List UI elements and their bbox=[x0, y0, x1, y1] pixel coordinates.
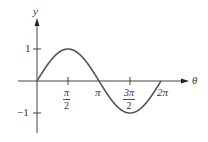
frac-denominator: 2 bbox=[127, 100, 132, 111]
y-axis-label: y bbox=[33, 6, 38, 17]
x-axis-arrow-icon bbox=[181, 79, 189, 84]
frac-numerator: π bbox=[63, 88, 70, 100]
y-tick-label-1: 1 bbox=[25, 43, 31, 54]
y-tick-label-neg1: −1 bbox=[17, 107, 29, 118]
frac-numerator: 3π bbox=[123, 88, 135, 100]
x-tick-label-pi: π bbox=[95, 87, 101, 98]
x-tick-label-3pi-half: 3π 2 bbox=[123, 88, 135, 111]
sine-chart bbox=[0, 0, 208, 142]
x-axis-label: θ bbox=[192, 75, 197, 86]
y-axis-arrow-icon bbox=[35, 18, 40, 26]
x-tick-label-pi-half: π 2 bbox=[63, 88, 70, 111]
frac-denominator: 2 bbox=[64, 100, 69, 111]
x-tick-label-2pi: 2π bbox=[157, 87, 168, 98]
